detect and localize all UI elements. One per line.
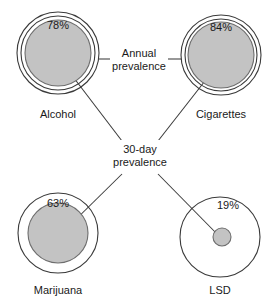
cigarettes-percent-label: 84% [210,21,232,33]
lsd-name-label: LSD [209,284,230,296]
node-lsd[interactable]: 19% LSD [180,197,260,296]
annual-prevalence-label: Annual prevalence [110,44,168,72]
alcohol-name-label: Alcohol [40,108,76,120]
center-label-line2: prevalence [113,156,167,168]
node-cigarettes[interactable]: 84% Cigarettes [181,15,261,120]
lsd-percent-label: 19% [217,199,239,211]
marijuana-name-label: Marijuana [34,284,83,296]
lsd-disc [213,228,231,246]
bubble-diagram: 78% Alcohol 84% Cigarettes 63% Marijuana… [0,0,277,308]
diagram-canvas: 78% Alcohol 84% Cigarettes 63% Marijuana… [0,0,277,308]
marijuana-percent-label: 63% [47,197,69,209]
marijuana-disc [28,203,88,263]
thirty-day-prevalence-label: 30-day prevalence [108,140,172,168]
cigarettes-name-label: Cigarettes [196,108,247,120]
connector-center-to-lsd [158,174,219,236]
annual-label-line1: Annual [122,47,156,59]
node-alcohol[interactable]: 78% Alcohol [17,12,99,120]
alcohol-percent-label: 78% [47,19,69,31]
annual-label-line2: prevalence [112,60,166,72]
center-label-line1: 30-day [123,143,157,155]
node-marijuana[interactable]: 63% Marijuana [18,193,98,296]
